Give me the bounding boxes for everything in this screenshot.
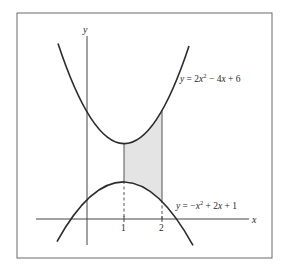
area-between-curves-figure: y x 1 2 y = 2x2 − 4x + 6 y = −x2 + 2x + … [0,0,285,266]
eq-part: = 2 [184,74,199,84]
eq-part: + 6 [226,74,241,84]
x-tick-label-1: 1 [121,223,126,233]
eq-part: − 4 [207,74,222,84]
y-axis-label: y [82,24,88,35]
upper-curve-equation-label: y = 2x2 − 4x + 6 [179,72,241,84]
lower-parabola-curve [57,182,193,245]
x-axis-label: x [251,214,257,225]
eq-part: = − [180,201,195,211]
upper-parabola-curve [58,44,189,144]
eq-part: + 1 [222,201,237,211]
x-tick-label-2: 2 [159,223,164,233]
eq-part: + 2 [203,201,218,211]
lower-curve-equation-label: y = −x2 + 2x + 1 [175,199,237,211]
